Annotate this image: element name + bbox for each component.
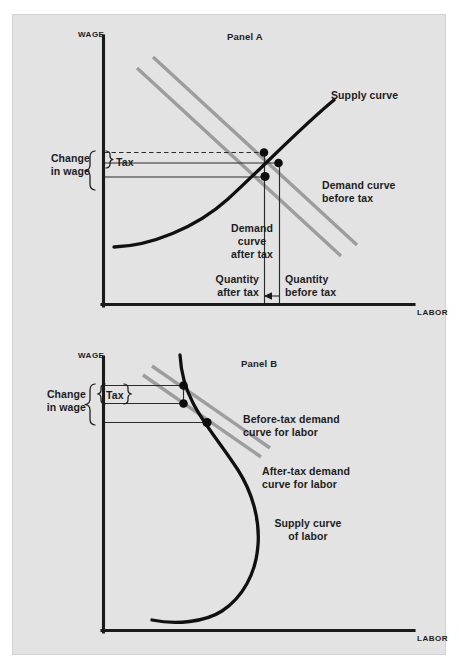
panel-b-tax-label: Tax: [106, 389, 124, 401]
panel-a-demand-after-tax-label-line3: after tax: [204, 248, 300, 260]
panel-a-change-in-wage-label-line2: in wage: [18, 165, 90, 177]
panel-a-demand-after-tax-label-line1: Demand: [204, 222, 300, 234]
panel-a-title: Panel A: [227, 31, 263, 42]
panel-a-tax-brace: [106, 151, 113, 168]
panel-b-point-after-tax-equilibrium: [202, 418, 211, 427]
panel-b-supply-curve: [152, 355, 258, 622]
panel-a-quantity-after-tax-label-line1: Quantity: [175, 273, 259, 285]
panel-b-y-axis-label: WAGE: [78, 351, 104, 360]
panel-b-change-in-wage-brace: [85, 384, 95, 425]
panel-a-quantity-before-tax-label-line1: Quantity: [285, 273, 328, 285]
panel-a-graphics: [85, 36, 414, 306]
panel-b-title-text: Panel: [241, 358, 270, 369]
panel-a-quantity-after-tax-label-line2: after tax: [175, 286, 259, 298]
panel-a-point-wage-paid-by-firms: [260, 148, 269, 157]
panel-b-before-tax-demand-label-line2: curve for labor: [243, 426, 318, 438]
panel-b-title-letter: B: [270, 358, 277, 369]
panel-a-supply-curve-label: Supply curve: [331, 89, 398, 101]
panel-a-change-in-wage-label-line1: Change: [18, 152, 90, 164]
panel-b-change-in-wage-label-line1: Change: [14, 388, 86, 400]
panel-a-title-text: Panel: [227, 31, 256, 42]
panel-a-demand-before-tax-label-line1: Demand curve: [322, 179, 396, 191]
panel-b-supply-curve-label-line2: of labor: [258, 530, 358, 542]
figure-root: WAGE LABOR Panel A Supply curve Demand c…: [0, 0, 459, 671]
panel-a-demand-after-tax-label-line2: curve: [204, 235, 300, 247]
panel-b-point-before-tax-equilibrium: [179, 399, 188, 408]
panel-a-quantity-arrow-head: [264, 292, 272, 300]
panel-a-point-after-tax-equilibrium: [260, 172, 269, 181]
panel-a-tax-label: Tax: [116, 156, 134, 168]
panel-b-tax-brace-right: [124, 384, 132, 404]
panel-b-after-tax-demand-label-line1: After-tax demand: [262, 465, 350, 477]
panel-a-demand-before-tax-curve: [153, 57, 357, 245]
panel-b-before-tax-demand-label-line1: Before-tax demand: [243, 413, 340, 425]
panel-b-after-tax-demand-label-line2: curve for labor: [262, 478, 337, 490]
panel-a-demand-before-tax-label-line2: before tax: [322, 192, 373, 204]
panel-b-graphics: [85, 355, 414, 632]
panel-b-x-axis-label: LABOR: [417, 634, 448, 643]
panel-b-change-in-wage-label-line2: in wage: [14, 401, 86, 413]
panel-a-y-axis-label: WAGE: [78, 30, 104, 39]
panel-a-quantity-before-tax-label-line2: before tax: [285, 286, 336, 298]
panel-b-point-wage-paid-by-firms: [179, 381, 188, 390]
panel-a-point-before-tax-equilibrium: [274, 159, 283, 168]
panel-a-x-axis-label: LABOR: [417, 308, 448, 317]
panel-b-title: Panel B: [241, 358, 277, 369]
panel-b-supply-curve-label-line1: Supply curve: [258, 517, 358, 529]
panel-a-title-letter: A: [256, 31, 263, 42]
